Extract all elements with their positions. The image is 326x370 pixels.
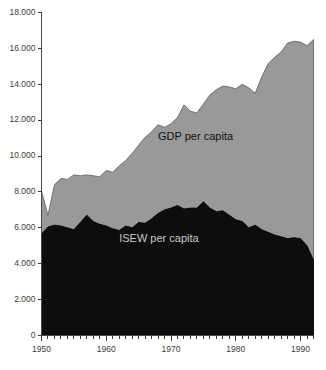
annotation-gdp-per-capita: GDP per capita (158, 130, 234, 142)
x-tick-label: 1950 (32, 344, 51, 354)
x-tick-label: 1980 (226, 344, 245, 354)
y-tick-label: 8.000 (14, 186, 36, 196)
chart-container: 02.0004.0006.0008.00010.00012.00014.0001… (0, 0, 326, 370)
y-tick-label: 10.000 (10, 150, 36, 160)
x-tick-label: 1990 (291, 344, 310, 354)
x-tick-label: 1970 (162, 344, 181, 354)
y-tick-label: 6.000 (14, 222, 36, 232)
y-tick-label: 16.000 (10, 43, 36, 53)
y-tick-label: 12.000 (10, 114, 36, 124)
area-chart: 02.0004.0006.0008.00010.00012.00014.0001… (0, 0, 326, 370)
annotation-isew-per-capita: ISEW per capita (119, 232, 199, 244)
y-tick-label: 0 (31, 330, 36, 340)
y-tick-label: 14.000 (10, 79, 36, 89)
y-tick-label: 2.000 (14, 294, 36, 304)
y-tick-label: 18.000 (10, 7, 36, 17)
y-tick-label: 4.000 (14, 258, 36, 268)
x-tick-label: 1960 (97, 344, 116, 354)
